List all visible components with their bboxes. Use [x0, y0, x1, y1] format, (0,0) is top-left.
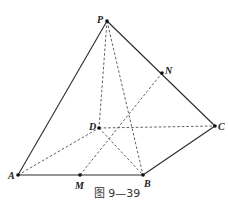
figure-caption: 图 9—39	[94, 187, 141, 200]
label-C: C	[218, 121, 225, 132]
pyramid-diagram: P N C D A M B 图 9—39	[0, 0, 228, 206]
point-N	[160, 71, 164, 75]
edge-PA	[18, 21, 107, 175]
label-N: N	[164, 65, 173, 76]
edge-DB	[99, 128, 143, 175]
solid-edges	[18, 21, 215, 175]
vertex-labels: P N C D A M B	[7, 14, 225, 191]
label-B: B	[143, 178, 151, 189]
point-P	[105, 19, 109, 23]
edge-PB	[107, 21, 143, 175]
edge-DC	[99, 126, 215, 128]
label-P: P	[97, 14, 104, 25]
point-C	[213, 124, 217, 128]
edge-BC	[143, 126, 215, 175]
edge-PD	[99, 21, 107, 128]
label-M: M	[74, 180, 85, 191]
label-D: D	[88, 121, 96, 132]
point-A	[16, 173, 20, 177]
point-B	[141, 173, 145, 177]
edge-AD	[18, 128, 99, 175]
label-A: A	[7, 170, 15, 181]
point-M	[78, 173, 82, 177]
point-D	[97, 126, 101, 130]
